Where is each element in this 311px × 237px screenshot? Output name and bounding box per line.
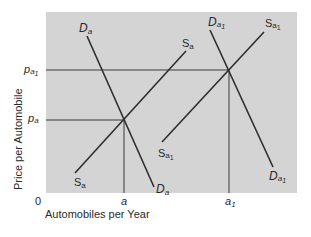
origin-label: 0 [35,195,41,207]
x-tick-a: a [121,195,127,207]
x-tick-a1: a1 [225,195,236,209]
supply-demand-diagram: Da Da Sa Sa Da1 Da1 Sa1 Sa1 pa1 pa 0 a a… [0,0,311,237]
y-axis-title: Price per Automobile [12,89,24,191]
y-tick-pa: pa [27,112,39,125]
plot-area [46,12,297,193]
y-tick-pa1: pa1 [23,63,39,77]
x-axis-title: Automobiles per Year [45,208,150,220]
